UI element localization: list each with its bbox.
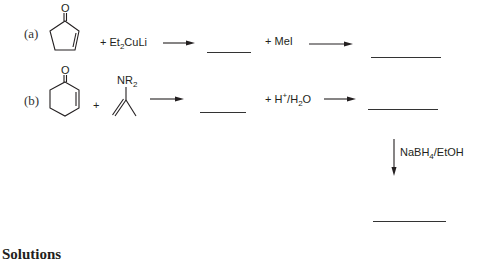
cyclopentenone-structure: O [44,0,88,58]
answer-blank-b-intermediate[interactable] [200,112,246,113]
answer-blank-b-product[interactable] [368,109,438,110]
answer-blank-b-final[interactable] [373,221,446,222]
reaction-arrow-a1 [162,39,196,47]
carbonyl-oxygen: O [61,2,70,14]
reagent-organocuprate: + Et2CuLi [100,36,147,51]
answer-blank-a-intermediate[interactable] [207,52,251,53]
answer-blank-a-product[interactable] [371,57,441,58]
reagent-acid-water: + H+/H2O [265,91,311,108]
reagent-sodium-borohydride: NaBH4/EtOH [400,146,464,161]
problem-a-label: (a) [24,26,38,42]
enamine-structure: NR2 [104,72,148,122]
reaction-arrow-b1 [149,95,185,103]
reaction-arrow-b3-down [390,138,398,178]
reaction-arrow-b2 [323,95,357,103]
plus-sign: + [93,99,99,111]
problem-b-label: (b) [24,93,39,109]
cyclohexenone-structure: O [44,62,88,122]
reagent-methyl-iodide: + MeI [265,35,293,47]
carbonyl-oxygen: O [61,64,70,76]
section-heading-solutions: Solutions [2,246,61,263]
amine-group: NR2 [117,74,138,89]
reaction-arrow-a2 [308,40,354,48]
